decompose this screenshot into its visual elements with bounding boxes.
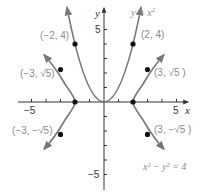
- y-tick-label-max: 5: [95, 24, 101, 35]
- hyperbola-equation-label: x² − y² = 4: [142, 161, 186, 172]
- parabola-equation-label: y = x2: [130, 6, 156, 18]
- vertex-neg2-0: [72, 99, 77, 104]
- label-3-negsqrt5: (3, −√5 ): [154, 124, 191, 135]
- point-3-sqrt5: [145, 67, 150, 72]
- label-neg2-4: (−2, 4): [40, 30, 69, 41]
- label-2-4: (2, 4): [141, 29, 164, 40]
- label-neg3-negsqrt5: (−3, −√5): [12, 125, 53, 136]
- point-2-4: [130, 41, 135, 46]
- x-tick-label-max: 5: [173, 105, 179, 116]
- chart-canvas: −5 5 5 −5 x y (−2, 4) (2, 4) (−3, √5) (: [0, 0, 204, 195]
- x-axis-label: x: [184, 104, 190, 116]
- label-3-sqrt5: (3, √5 ): [154, 67, 186, 78]
- vertex-2-0: [130, 99, 135, 104]
- label-neg3-sqrt5: (−3, √5): [20, 68, 55, 79]
- y-tick-label-min: −5: [88, 169, 100, 180]
- point-neg3-negsqrt5: [58, 132, 63, 137]
- graph-figure: −5 5 5 −5 x y (−2, 4) (2, 4) (−3, √5) (: [0, 0, 204, 195]
- point-neg2-4: [72, 41, 77, 46]
- point-neg3-sqrt5: [58, 67, 63, 72]
- point-3-negsqrt5: [145, 132, 150, 137]
- x-tick-label-min: −5: [24, 105, 36, 116]
- y-axis-label: y: [94, 7, 100, 19]
